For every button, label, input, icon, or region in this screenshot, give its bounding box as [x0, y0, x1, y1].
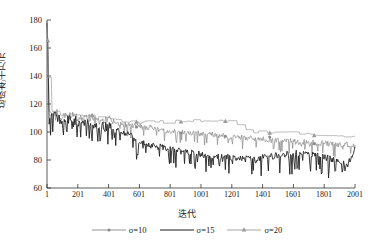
x-tick-label: 1201	[224, 190, 240, 199]
y-tick-label: 120	[16, 99, 42, 109]
series-marker	[313, 142, 316, 145]
legend-item-sigma15: σ=15	[160, 225, 215, 235]
x-tick-marks	[47, 184, 355, 188]
y-tick-label: 140	[16, 71, 42, 81]
y-tick-label: 80	[16, 155, 42, 165]
legend-swatch-line-icon	[160, 225, 194, 235]
y-tick-label: 100	[16, 127, 42, 137]
series-marker	[179, 131, 182, 134]
series-line-sigma-20	[47, 20, 355, 137]
x-tick-label: 1001	[193, 190, 209, 199]
x-tick-label: 1801	[316, 190, 332, 199]
legend-label-sigma15: σ=15	[197, 225, 215, 235]
series-line-sigma-15	[47, 23, 355, 178]
x-tick-label: 1601	[285, 190, 301, 199]
series-marker	[268, 136, 271, 139]
legend-item-sigma10: σ=10	[92, 225, 147, 235]
x-axis-label: 迭代	[0, 207, 374, 220]
y-tick-label: 180	[16, 15, 42, 25]
series-marker	[135, 125, 138, 128]
legend-item-sigma20: σ=20	[227, 225, 282, 235]
legend-swatch-dot-icon	[92, 225, 126, 235]
x-tick-label: 2001	[347, 190, 363, 199]
chart-figure: 总成本/十万元 180 160 140 120 100 80 60 1 201 …	[0, 0, 374, 249]
x-tick-label: 201	[72, 190, 84, 199]
y-tick-label: 160	[16, 43, 42, 53]
legend-label-sigma20: σ=20	[264, 225, 282, 235]
x-tick-label: 401	[103, 190, 115, 199]
x-tick-label: 1401	[255, 190, 271, 199]
series-line-sigma-10	[47, 20, 355, 157]
x-tick-label: 1	[45, 190, 49, 199]
chart-legend: σ=10 σ=15 σ=20	[0, 225, 374, 235]
series-marker	[224, 135, 227, 138]
legend-label-sigma10: σ=10	[129, 225, 147, 235]
y-tick-label: 60	[16, 183, 42, 193]
legend-swatch-triangle-icon	[227, 225, 261, 235]
x-tick-label: 801	[164, 190, 176, 199]
x-tick-label: 601	[133, 190, 145, 199]
axis-lines	[47, 20, 355, 188]
series-marker	[46, 38, 50, 42]
series-lines	[46, 20, 355, 178]
